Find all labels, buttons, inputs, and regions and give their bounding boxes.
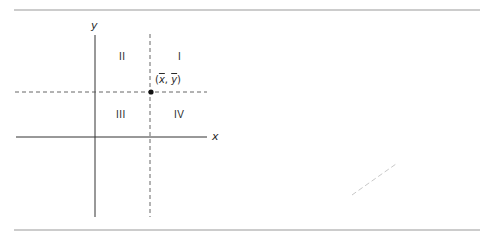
faint-mark	[352, 164, 396, 195]
mean-point	[148, 89, 153, 94]
quadrant-label-3: III	[116, 110, 126, 120]
quadrant-label-4: IV	[174, 110, 184, 120]
quadrant-label-2: II	[119, 52, 126, 62]
quadrant-label-1: I	[178, 52, 181, 62]
mean-point-label: (x, y)	[155, 75, 181, 85]
x-axis-label: x	[212, 131, 219, 142]
y-axis-label: y	[91, 20, 98, 31]
mean-label-close-paren: )	[177, 74, 181, 85]
diagram-canvas	[0, 0, 485, 239]
